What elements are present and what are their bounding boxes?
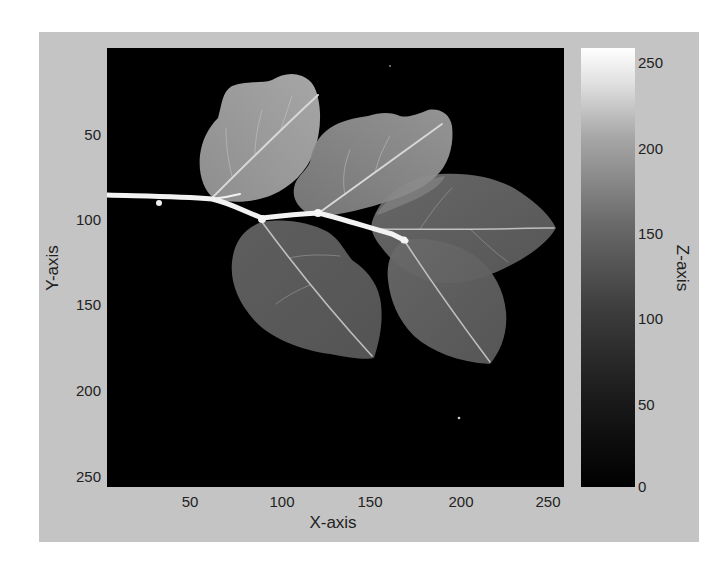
x-axis-label: X-axis	[309, 514, 356, 531]
noise-speck	[458, 417, 461, 420]
x-tick-label: 150	[357, 494, 382, 509]
z-tick-label: 250	[638, 55, 663, 70]
y-tick-label: 50	[61, 127, 101, 142]
y-tick-label: 200	[61, 383, 101, 398]
colorbar[interactable]	[581, 48, 635, 487]
y-tick-label: 250	[61, 469, 101, 484]
x-tick-label: 100	[269, 494, 294, 509]
image-plot-area[interactable]	[107, 48, 564, 487]
z-axis-label: Z-axis	[674, 245, 691, 291]
z-tick-label: 150	[638, 226, 663, 241]
colorbar-gradient	[581, 48, 635, 487]
z-tick-label: 100	[638, 311, 663, 326]
y-tick-label: 150	[61, 297, 101, 312]
z-tick-label: 0	[638, 479, 646, 494]
x-tick-label: 200	[448, 494, 473, 509]
y-tick-label: 100	[61, 212, 101, 227]
x-tick-label: 50	[182, 494, 199, 509]
y-axis-label: Y-axis	[44, 245, 61, 291]
z-tick-label: 50	[638, 397, 655, 412]
z-tick-label: 200	[638, 141, 663, 156]
leaf-image	[107, 48, 564, 487]
x-tick-label: 250	[535, 494, 560, 509]
leaf-bottom-middle	[232, 220, 382, 358]
